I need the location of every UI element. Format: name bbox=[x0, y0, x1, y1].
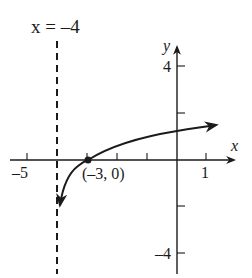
y-axis-label: y bbox=[161, 37, 171, 55]
point-label: (–3, 0) bbox=[82, 165, 125, 183]
asymptote-label: x = –4 bbox=[31, 16, 80, 37]
x-tick-label-neg5: –5 bbox=[11, 164, 28, 181]
graph-canvas: x = –4 y 4 –4 x –5 1 (–3, 0) bbox=[0, 0, 252, 278]
x-tick-label-1: 1 bbox=[201, 164, 209, 181]
x-axis-label: x bbox=[230, 137, 238, 154]
point-marker bbox=[85, 157, 92, 164]
y-tick-label-neg4: –4 bbox=[154, 245, 171, 262]
x-ticks bbox=[27, 153, 206, 160]
graph-figure: x = –4 y 4 –4 x –5 1 (–3, 0) bbox=[0, 0, 252, 278]
y-tick-label-4: 4 bbox=[163, 58, 171, 75]
